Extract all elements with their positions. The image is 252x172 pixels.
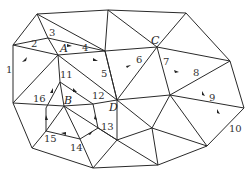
path-label-6: 6 [136, 54, 142, 65]
path-label-7: 7 [163, 56, 169, 67]
path-labels: 1 2 3 4 5 6 7 8 9 10 11 12 13 14 15 16 [6, 27, 242, 153]
triangulation-diagram: A C D B 1 2 3 4 5 6 7 8 9 10 11 12 13 14… [0, 0, 252, 172]
path-label-5: 5 [101, 68, 107, 79]
path-label-13: 13 [101, 121, 114, 132]
path-label-16: 16 [33, 93, 46, 104]
path-label-10: 10 [229, 123, 242, 134]
path-label-3: 3 [49, 27, 55, 38]
path-label-15: 15 [44, 133, 57, 144]
arrow-4-icon [126, 65, 131, 68]
vertex-label-a: A [59, 42, 68, 55]
vertex-label-b: B [63, 94, 72, 107]
arrow-8-icon [73, 88, 77, 92]
path-label-2: 2 [31, 38, 37, 49]
path-label-1: 1 [6, 64, 12, 75]
arrow-7-icon [217, 109, 220, 114]
path-label-14: 14 [70, 142, 83, 153]
arrow-13-icon [50, 88, 53, 93]
path-label-9: 9 [209, 92, 215, 103]
vertex-label-d: D [108, 101, 118, 114]
arrow-6-icon [202, 91, 205, 96]
path-label-4: 4 [82, 42, 88, 53]
edges [13, 10, 244, 168]
vertex-labels: A C D B [59, 34, 160, 114]
arrow-3-icon [93, 58, 98, 61]
path-label-8: 8 [193, 67, 199, 78]
vertex-label-c: C [151, 34, 160, 47]
path-label-11: 11 [60, 69, 73, 80]
direction-arrows [22, 44, 220, 135]
arrow-1-icon [22, 57, 27, 62]
arrow-10-icon [88, 131, 93, 135]
path-label-12: 12 [92, 90, 105, 101]
arrow-5-icon [174, 70, 179, 73]
